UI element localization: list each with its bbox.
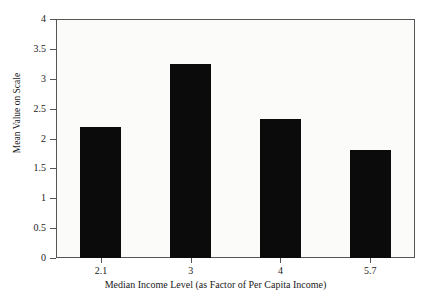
chart-title [0,0,431,7]
bar [350,150,391,258]
y-axis-tick-label: 1 [6,193,46,203]
bars-layer [56,19,415,258]
y-axis-tick [50,258,56,259]
x-axis-title: Median Income Level (as Factor of Per Ca… [0,279,431,291]
y-axis-tick-label: 0.5 [6,223,46,233]
y-axis-tick-label: 1.5 [6,163,46,173]
x-axis-tick-label: 5.7 [340,265,400,276]
bar [260,119,301,258]
x-axis-tick-label: 2.1 [71,265,131,276]
y-axis-tick-label: 3.5 [6,44,46,54]
x-axis-tick [191,258,192,263]
y-axis-tick-label: 2.5 [6,104,46,114]
y-axis-tick-label: 2 [6,134,46,144]
y-axis-tick-label: 0 [6,253,46,263]
x-axis-tick [370,258,371,263]
y-axis-tick-label: 3 [6,74,46,84]
y-axis-tick-label: 4 [6,14,46,24]
x-axis-tick [101,258,102,263]
bar [80,127,121,258]
x-axis-tick-label: 4 [250,265,310,276]
x-axis-tick-label: 3 [161,265,221,276]
x-axis-tick [280,258,281,263]
bar [170,64,211,258]
bar-chart-figure: Mean Value on Scale 00.511.522.533.54 2.… [0,0,431,296]
